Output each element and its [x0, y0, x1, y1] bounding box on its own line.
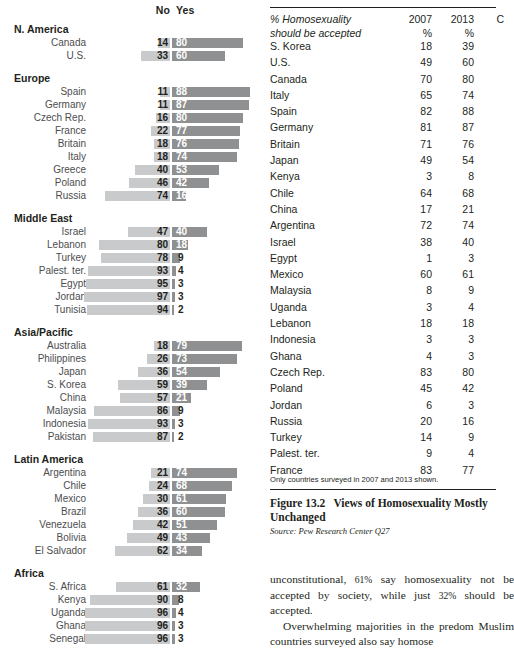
table-cell-2007: 8 — [390, 284, 432, 300]
bar-value-yes: 79 — [176, 339, 198, 352]
table-cell-2013: 3 — [432, 252, 474, 268]
bar-value-yes: 3 — [178, 277, 200, 290]
table-cell-2007: 14 — [390, 431, 432, 447]
table-cell-country: Kenya — [270, 170, 390, 186]
table-header-2013-year: 2013 — [451, 13, 474, 25]
chart-row-bars: 942 — [0, 303, 252, 316]
table-cell-change — [474, 105, 504, 121]
table-cell-change — [474, 350, 504, 366]
table-cell-country: Egypt — [270, 252, 390, 268]
table-cell-2007: 60 — [390, 268, 432, 284]
bar-value-yes: 42 — [176, 176, 198, 189]
table-cell-2007: 20 — [390, 415, 432, 431]
table-row: Czech Rep.8380 — [270, 366, 504, 382]
table-row: Japan4954 — [270, 154, 504, 170]
table-row: Poland4542 — [270, 382, 504, 398]
bar-value-yes: 3 — [178, 290, 200, 303]
bar-value-no: 78 — [146, 251, 168, 264]
bar-value-no: 30 — [146, 492, 168, 505]
bar-value-yes: 9 — [178, 251, 200, 264]
bar-value-no: 46 — [146, 176, 168, 189]
table-cell-country: U.S. — [270, 56, 390, 72]
chart-row-bars: 1188 — [0, 85, 252, 98]
table-cell-2013: 3 — [432, 399, 474, 415]
chart-row: Poland4642 — [0, 176, 252, 189]
table-header-change: C — [474, 13, 504, 40]
bar-value-no: 36 — [146, 365, 168, 378]
acceptance-change-table: % Homosexuality should be accepted 2007 … — [270, 13, 504, 480]
table-cell-2007: 82 — [390, 105, 432, 121]
table-cell-2013: 74 — [432, 89, 474, 105]
chart-row: Indonesia933 — [0, 417, 252, 430]
bar-value-yes: 2 — [178, 430, 200, 443]
table-cell-2013: 68 — [432, 187, 474, 203]
table-cell-change — [474, 284, 504, 300]
table-cell-country: Malaysia — [270, 284, 390, 300]
table-cell-country: Turkey — [270, 431, 390, 447]
chart-group-title: N. America — [0, 22, 252, 36]
table-cell-2013: 60 — [432, 56, 474, 72]
bar-value-no: 86 — [146, 404, 168, 417]
table-cell-2007: 1 — [390, 252, 432, 268]
bar-value-yes: 34 — [176, 544, 198, 557]
table-cell-2007: 3 — [390, 170, 432, 186]
table-cell-change — [474, 431, 504, 447]
chart-group-spacer — [0, 443, 252, 452]
table-cell-change — [474, 138, 504, 154]
chart-row: Argentina2174 — [0, 466, 252, 479]
bar-value-yes: 60 — [176, 505, 198, 518]
table-row: Spain8288 — [270, 105, 504, 121]
legend-label-yes: Yes — [176, 4, 202, 16]
chart-row-bars: 5939 — [0, 378, 252, 391]
chart-row-bars: 908 — [0, 593, 252, 606]
bar-value-yes: 2 — [178, 303, 200, 316]
chart-row-bars: 3660 — [0, 505, 252, 518]
figure-caption: Figure 13.2Views of Homosexuality Mostly… — [270, 497, 504, 524]
table-cell-2013: 80 — [432, 366, 474, 382]
table-cell-change — [474, 333, 504, 349]
table-row: Ghana43 — [270, 350, 504, 366]
table-header-2007: 2007 % — [390, 13, 432, 40]
bar-value-no: 90 — [146, 593, 168, 606]
chart-row-bars: 789 — [0, 251, 252, 264]
chart-row: Philippines2673 — [0, 352, 252, 365]
table-row: Argentina7274 — [270, 219, 504, 235]
table-cell-2007: 64 — [390, 187, 432, 203]
table-cell-country: Czech Rep. — [270, 366, 390, 382]
table-cell-2013: 9 — [432, 431, 474, 447]
table-cell-country: Argentina — [270, 219, 390, 235]
bar-value-no: 62 — [146, 544, 168, 557]
article-body-text: unconstitutional, 61% say homosexuality … — [270, 572, 514, 650]
chart-row-bars: 953 — [0, 277, 252, 290]
chart-row: China5721 — [0, 391, 252, 404]
table-row: U.S.4960 — [270, 56, 504, 72]
table-body: S. Korea1839 U.S.4960 Canada7080 Italy65… — [270, 40, 504, 480]
table-cell-2013: 88 — [432, 105, 474, 121]
bar-value-yes: 87 — [176, 98, 198, 111]
legend-label-no: No — [150, 4, 170, 16]
homosexuality-acceptance-bar-chart: No Yes N. AmericaCanada1480U.S.3360Europ… — [0, 0, 252, 637]
table-cell-country: Indonesia — [270, 333, 390, 349]
bar-value-no: 33 — [146, 49, 168, 62]
bar-value-yes: 54 — [176, 365, 198, 378]
table-cell-2013: 4 — [432, 301, 474, 317]
chart-row: Israel4740 — [0, 225, 252, 238]
chart-row-bars: 1876 — [0, 137, 252, 150]
bar-value-yes: 4 — [178, 606, 200, 619]
bar-segment-yes — [172, 266, 176, 276]
chart-row-bars: 6234 — [0, 544, 252, 557]
chart-row-bars: 2673 — [0, 352, 252, 365]
table-cell-2013: 40 — [432, 236, 474, 252]
chart-row: Ghana963 — [0, 619, 252, 632]
bar-value-no: 61 — [146, 580, 168, 593]
table-cell-change — [474, 219, 504, 235]
bar-value-yes: 8 — [178, 593, 200, 606]
body-paragraph-2: Overwhelming majorities in the predom Mu… — [270, 619, 514, 650]
figure-source: Source: Pew Research Center Q27 — [270, 526, 504, 536]
chart-row-bars: 2468 — [0, 479, 252, 492]
table-cell-country: Uganda — [270, 301, 390, 317]
table-cell-change — [474, 317, 504, 333]
chart-group: Latin AmericaArgentina2174Chile2468Mexic… — [0, 452, 252, 557]
table-cell-2013: 3 — [432, 350, 474, 366]
table-row: Malaysia89 — [270, 284, 504, 300]
